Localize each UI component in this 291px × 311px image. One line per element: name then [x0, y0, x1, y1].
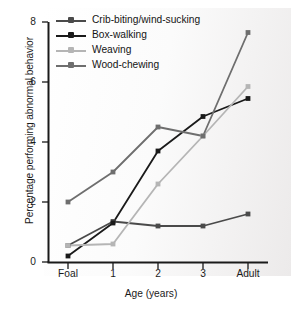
series-marker-2-2	[156, 182, 161, 187]
series-marker-3-3	[201, 134, 206, 139]
series-line-1	[68, 99, 248, 257]
series-marker-2-1	[111, 242, 116, 247]
y-axis-ticks	[42, 22, 48, 262]
series-marker-1-3	[201, 114, 206, 119]
series-marker-3-0	[66, 200, 71, 205]
legend-marker-crib-biting	[68, 17, 74, 23]
series-marker-2-0	[66, 243, 71, 248]
legend-item-crib-biting: Crib-biting/wind-sucking	[56, 14, 266, 29]
series-line-0	[68, 214, 248, 246]
legend-item-weaving: Weaving	[56, 44, 266, 59]
chart-figure: Percentage performing abnormal behavior …	[0, 0, 291, 311]
series-marker-2-4	[246, 84, 251, 89]
legend-label-wood-chewing: Wood-chewing	[92, 59, 159, 70]
legend-marker-weaving	[68, 47, 74, 53]
legend-item-wood-chewing: Wood-chewing	[56, 59, 266, 74]
series-marker-0-3	[201, 224, 206, 229]
series-marker-1-1	[111, 221, 116, 226]
legend-marker-box-walking	[68, 32, 74, 38]
legend-label-crib-biting: Crib-biting/wind-sucking	[92, 14, 200, 25]
legend-label-box-walking: Box-walking	[92, 29, 147, 40]
series-marker-3-1	[111, 170, 116, 175]
series-marker-0-2	[156, 224, 161, 229]
series-marker-1-2	[156, 149, 161, 154]
series-marker-1-4	[246, 96, 251, 101]
chart-legend: Crib-biting/wind-sucking Box-walking Wea…	[56, 14, 266, 74]
x-axis-ticks	[68, 263, 248, 269]
legend-marker-wood-chewing	[68, 62, 74, 68]
series-marker-0-4	[246, 212, 251, 217]
series-marker-3-2	[156, 125, 161, 130]
series-marker-1-0	[66, 254, 71, 259]
legend-label-weaving: Weaving	[92, 44, 131, 55]
legend-item-box-walking: Box-walking	[56, 29, 266, 44]
